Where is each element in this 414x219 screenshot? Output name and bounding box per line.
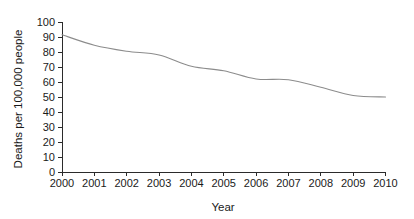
y-tick-label: 80 bbox=[43, 46, 55, 58]
data-series-line bbox=[62, 35, 386, 97]
y-tick-label: 60 bbox=[43, 76, 55, 88]
y-tick-label: 70 bbox=[43, 61, 55, 73]
chart-canvas: 0102030405060708090100 20002001200220032… bbox=[0, 0, 414, 219]
x-tick-label: 2001 bbox=[82, 177, 106, 189]
y-axis-title: Deaths per 100,000 people bbox=[12, 30, 24, 169]
x-tick-label: 2000 bbox=[50, 177, 74, 189]
x-tick-label: 2007 bbox=[276, 177, 300, 189]
x-axis-ticks bbox=[62, 172, 386, 176]
y-axis-ticks bbox=[58, 22, 62, 172]
x-tick-label: 2003 bbox=[147, 177, 171, 189]
y-tick-label: 50 bbox=[43, 91, 55, 103]
x-axis-tick-labels: 2000200120022003200420052006200720082009… bbox=[50, 177, 398, 189]
x-tick-label: 2004 bbox=[179, 177, 203, 189]
x-tick-label: 2002 bbox=[114, 177, 138, 189]
y-tick-label: 40 bbox=[43, 106, 55, 118]
x-tick-label: 2010 bbox=[373, 177, 397, 189]
y-axis-tick-labels: 0102030405060708090100 bbox=[37, 16, 55, 178]
y-tick-label: 90 bbox=[43, 31, 55, 43]
x-axis-title: Year bbox=[211, 201, 234, 213]
y-tick-label: 100 bbox=[37, 16, 55, 28]
y-tick-label: 10 bbox=[43, 151, 55, 163]
x-tick-label: 2009 bbox=[341, 177, 365, 189]
y-tick-label: 30 bbox=[43, 121, 55, 133]
x-tick-label: 2005 bbox=[212, 177, 236, 189]
y-tick-label: 20 bbox=[43, 136, 55, 148]
line-chart: 0102030405060708090100 20002001200220032… bbox=[0, 0, 414, 219]
x-tick-label: 2006 bbox=[244, 177, 268, 189]
x-tick-label: 2008 bbox=[309, 177, 333, 189]
